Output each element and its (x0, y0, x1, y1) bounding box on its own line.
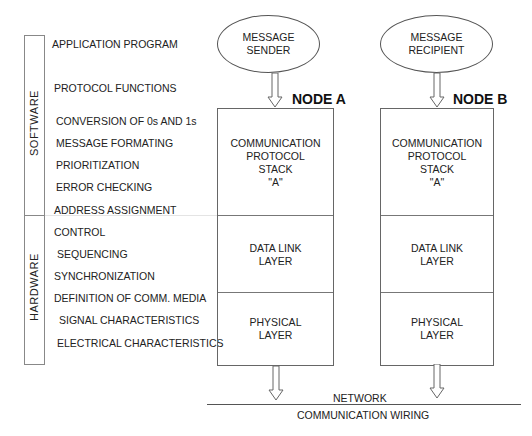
data-link-layer: DATA LINKLAYER (381, 216, 493, 293)
function-label: APPLICATION PROGRAM (52, 38, 178, 50)
function-label: PRIORITIZATION (56, 159, 139, 171)
protocol-stack-layer: COMMUNICATIONPROTOCOLSTACK"A" (381, 109, 493, 216)
sender-line-2: SENDER (247, 44, 291, 56)
arrow-down-icon (267, 73, 283, 109)
function-label: MESSAGE FORMATING (56, 137, 173, 149)
function-label: SYNCHRONIZATION (54, 270, 155, 282)
message-recipient-oval: MESSAGERECIPIENT (380, 15, 493, 73)
function-label: SEQUENCING (57, 248, 128, 260)
recipient-line-2: RECIPIENT (408, 44, 464, 56)
physical-layer: PHYSICALLAYER (381, 293, 493, 365)
function-label: ELECTRICAL CHARACTERISTICS (57, 337, 223, 349)
network-label: NETWORK (333, 392, 387, 404)
node-a-label: NODE A (292, 91, 346, 107)
arrow-down-icon (268, 366, 284, 402)
node-b-label: NODE B (453, 91, 507, 107)
software-label: SOFTWARE (28, 92, 40, 156)
recipient-line-1: MESSAGE (411, 31, 463, 43)
node-b-stack: COMMUNICATIONPROTOCOLSTACK"A" DATA LINKL… (380, 108, 494, 366)
message-sender-oval: MESSAGESENDER (217, 15, 320, 73)
arrow-down-icon (429, 73, 445, 109)
function-label: CONTROL (54, 226, 105, 238)
communication-wiring-label: COMMUNICATION WIRING (297, 409, 429, 421)
network-line (207, 404, 521, 405)
function-label: SIGNAL CHARACTERISTICS (59, 314, 199, 326)
function-label: ERROR CHECKING (56, 181, 152, 193)
function-label: DEFINITION OF COMM. MEDIA (54, 292, 206, 304)
node-a-stack: COMMUNICATIONPROTOCOLSTACK"A" DATA LINKL… (217, 108, 334, 366)
function-label: CONVERSION OF 0s AND 1s (56, 115, 197, 127)
function-label: ADDRESS ASSIGNMENT (54, 204, 177, 216)
hardware-label: HARDWARE (28, 255, 40, 321)
function-label: PROTOCOL FUNCTIONS (54, 82, 177, 94)
sender-line-1: MESSAGE (243, 31, 295, 43)
data-link-layer: DATA LINKLAYER (218, 216, 333, 293)
protocol-stack-layer: COMMUNICATIONPROTOCOLSTACK"A" (218, 109, 333, 216)
physical-layer: PHYSICALLAYER (218, 293, 333, 365)
arrow-down-icon (429, 364, 445, 400)
